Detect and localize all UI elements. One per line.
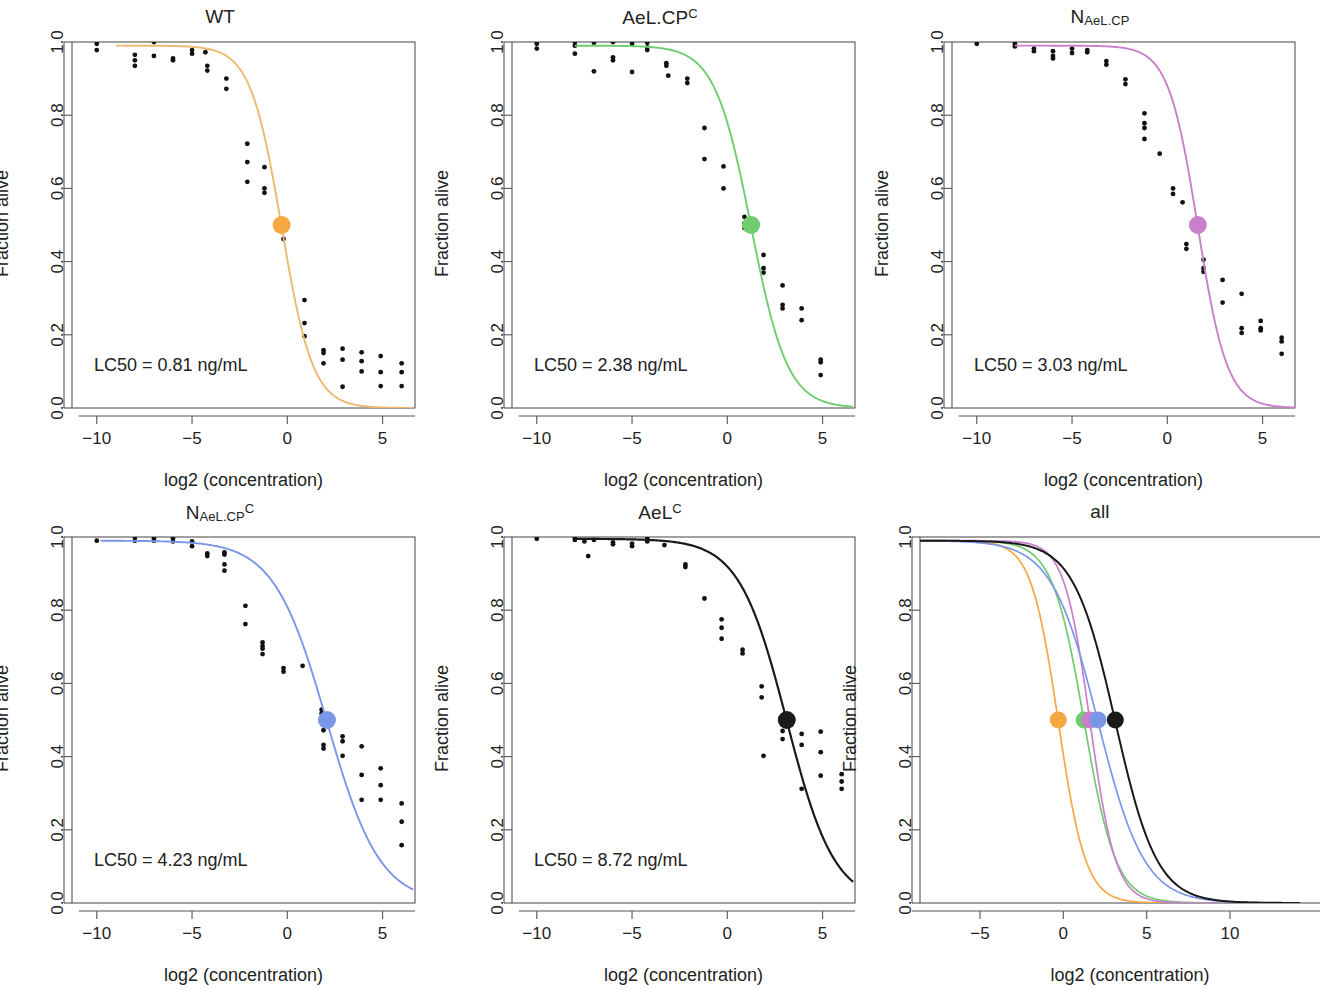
- x-axis-tick-label: 5: [378, 924, 387, 943]
- data-point: [340, 346, 345, 351]
- x-axis-tick-label: 0: [1059, 924, 1068, 943]
- data-point: [321, 746, 326, 751]
- data-point: [818, 729, 823, 734]
- data-point: [205, 554, 210, 559]
- data-point: [359, 773, 364, 778]
- data-point: [399, 370, 404, 375]
- data-point: [245, 141, 250, 146]
- data-point: [685, 76, 690, 81]
- data-point: [1220, 278, 1225, 283]
- data-point: [1180, 200, 1185, 205]
- data-point: [780, 729, 785, 734]
- x-axis-tick-label: 0: [1163, 429, 1172, 448]
- data-point: [702, 126, 707, 131]
- data-point: [1104, 62, 1109, 67]
- x-axis-tick-label: 5: [378, 429, 387, 448]
- data-point: [1142, 137, 1147, 142]
- data-point: [1123, 77, 1128, 82]
- data-point: [132, 52, 137, 57]
- data-point: [1184, 246, 1189, 251]
- data-point: [245, 160, 250, 165]
- data-point: [302, 321, 307, 326]
- plot-frame: [72, 537, 415, 903]
- x-axis-tick-label: −5: [622, 924, 641, 943]
- data-point: [630, 544, 635, 549]
- data-point: [1070, 46, 1075, 51]
- data-point: [359, 359, 364, 364]
- data-point: [1239, 291, 1244, 296]
- data-point: [203, 50, 208, 55]
- data-point: [378, 384, 383, 389]
- data-point: [359, 350, 364, 355]
- data-point: [818, 360, 823, 365]
- data-point: [1239, 326, 1244, 331]
- x-axis-tick-label: −5: [970, 924, 989, 943]
- data-point: [245, 179, 250, 184]
- data-point: [611, 40, 616, 45]
- panel-n_aelcp: NAeL.CP0.00.20.40.60.81.0−10−505Fraction…: [880, 0, 1320, 495]
- data-point: [205, 63, 210, 68]
- data-point: [224, 76, 229, 81]
- data-point: [685, 81, 690, 86]
- x-axis-tick-label: −10: [962, 429, 991, 448]
- data-point: [780, 737, 785, 742]
- x-axis-label: log2 (concentration): [72, 965, 415, 986]
- data-point: [243, 603, 248, 608]
- data-point: [243, 622, 248, 627]
- data-point: [340, 734, 345, 739]
- data-point: [281, 669, 286, 674]
- data-point: [378, 766, 383, 771]
- data-point: [1258, 328, 1263, 333]
- y-axis-label: Fraction alive: [432, 639, 453, 799]
- x-axis-tick-label: −5: [182, 924, 201, 943]
- data-point: [262, 186, 267, 191]
- fitted-curve: [575, 539, 853, 882]
- plot-area-wt: 0.00.20.40.60.81.0−10−505: [0, 0, 440, 495]
- data-point: [132, 58, 137, 63]
- data-point: [340, 753, 345, 758]
- lc50-annotation: LC50 = 3.03 ng/mL: [974, 355, 1128, 376]
- plot-area-aelc: 0.00.20.40.60.81.0−10−505: [440, 495, 880, 990]
- x-axis-tick-label: −10: [522, 429, 551, 448]
- data-point: [1123, 82, 1128, 87]
- x-axis-label: log2 (concentration): [952, 470, 1295, 491]
- data-point: [761, 253, 766, 258]
- plot-area-all: 0.00.20.40.60.81.0−50510: [880, 495, 1320, 990]
- x-axis-tick-label: 10: [1221, 924, 1240, 943]
- data-point: [260, 652, 265, 657]
- data-point: [378, 354, 383, 359]
- data-point: [262, 190, 267, 195]
- data-point: [1184, 242, 1189, 247]
- x-axis-tick-label: −10: [522, 924, 551, 943]
- data-point: [190, 544, 195, 549]
- fitted-curve: [116, 46, 413, 408]
- data-point: [222, 552, 227, 557]
- data-point: [780, 306, 785, 311]
- plot-frame: [512, 42, 855, 408]
- lc50-annotation: LC50 = 2.38 ng/mL: [534, 355, 688, 376]
- data-point: [719, 636, 724, 641]
- panel-all: all0.00.20.40.60.81.0−50510Fraction aliv…: [880, 495, 1320, 990]
- data-point: [1171, 191, 1176, 196]
- data-point: [340, 357, 345, 362]
- x-axis-tick-label: 5: [1258, 429, 1267, 448]
- data-point: [1258, 318, 1263, 323]
- x-axis-tick-label: −5: [182, 429, 201, 448]
- data-point: [611, 58, 616, 63]
- data-point: [1051, 49, 1056, 54]
- x-axis-label: log2 (concentration): [920, 965, 1324, 986]
- data-point: [645, 40, 650, 45]
- x-axis-tick-label: 0: [723, 924, 732, 943]
- lc50-marker: [318, 711, 336, 729]
- data-point: [222, 568, 227, 573]
- panel-aelcpc: AeL.CPC0.00.20.40.60.81.0−10−505Fraction…: [440, 0, 880, 495]
- lc50-marker: [742, 216, 760, 234]
- data-point: [664, 63, 669, 68]
- data-point: [780, 283, 785, 288]
- data-point: [359, 797, 364, 802]
- data-point: [300, 663, 305, 668]
- data-point: [702, 157, 707, 162]
- data-point: [359, 744, 364, 749]
- data-point: [1279, 351, 1284, 356]
